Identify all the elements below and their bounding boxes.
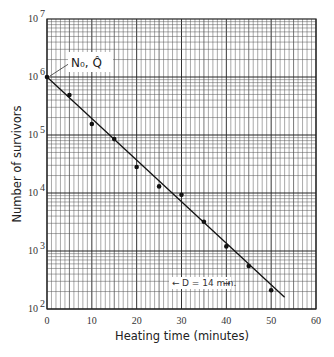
x-axis-title: Heating time (minutes) (115, 329, 249, 343)
y-tick-label: 10 (28, 129, 38, 140)
x-tick-label: 40 (221, 315, 231, 326)
n0-label: N₀, Q̂ (71, 56, 102, 70)
y-axis-ticks: 102103104105106107 (28, 8, 45, 314)
data-point (269, 288, 274, 293)
data-point (202, 219, 207, 224)
y-tick-exponent: 2 (40, 298, 45, 309)
y-tick-exponent: 7 (40, 8, 45, 19)
y-tick-label: 10 (28, 187, 38, 198)
data-point (112, 137, 117, 142)
x-tick-label: 30 (177, 315, 187, 326)
y-tick-exponent: 6 (40, 66, 45, 77)
y-tick-label: 10 (28, 13, 38, 24)
data-point (90, 122, 95, 127)
x-tick-label: 10 (87, 315, 97, 326)
x-tick-label: 60 (311, 315, 321, 326)
x-tick-label: 20 (132, 315, 142, 326)
data-point (67, 93, 72, 98)
y-tick-exponent: 3 (40, 240, 45, 251)
y-tick-exponent: 4 (40, 182, 45, 193)
data-point (224, 244, 229, 249)
survivor-curve-chart: 102103104105106107 0102030405060 N₀, Q̂ … (0, 0, 334, 357)
y-tick-label: 10 (28, 245, 38, 256)
y-tick-exponent: 5 (40, 124, 45, 135)
data-point (179, 193, 184, 198)
y-axis-title: Number of survivors (10, 105, 24, 222)
data-point (45, 75, 50, 80)
y-tick-label: 10 (28, 71, 38, 82)
n0-leader-line (50, 63, 70, 76)
y-tick-label: 10 (28, 303, 38, 314)
data-point (157, 184, 162, 189)
x-tick-label: 0 (45, 315, 50, 326)
x-axis-ticks: 0102030405060 (45, 315, 322, 326)
d-value-arrow-right: → (223, 278, 231, 288)
data-point (134, 165, 139, 170)
x-tick-label: 50 (266, 315, 276, 326)
d-value-arrow-left: ← (172, 278, 180, 288)
data-point (246, 264, 251, 269)
